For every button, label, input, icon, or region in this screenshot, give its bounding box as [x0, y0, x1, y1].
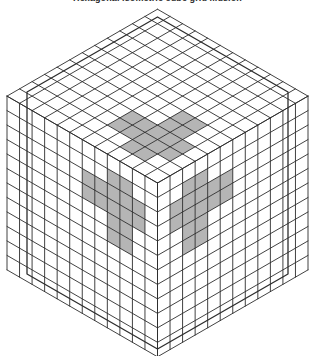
grid-line-layer	[7, 9, 308, 356]
isometric-hexagon-figure	[0, 0, 315, 356]
isometric-grid-svg	[0, 0, 315, 356]
